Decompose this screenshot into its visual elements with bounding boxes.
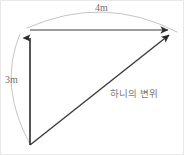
resultant-caption-label: 하니의 변위 bbox=[110, 89, 158, 99]
vector-diagram-svg bbox=[0, 0, 184, 155]
vertical-distance-label: 3m bbox=[5, 75, 18, 85]
figure-border bbox=[1, 1, 184, 155]
vector-diagram-canvas: 4m 3m 하니의 변위 bbox=[0, 0, 184, 155]
horizontal-distance-label: 4m bbox=[95, 3, 108, 13]
